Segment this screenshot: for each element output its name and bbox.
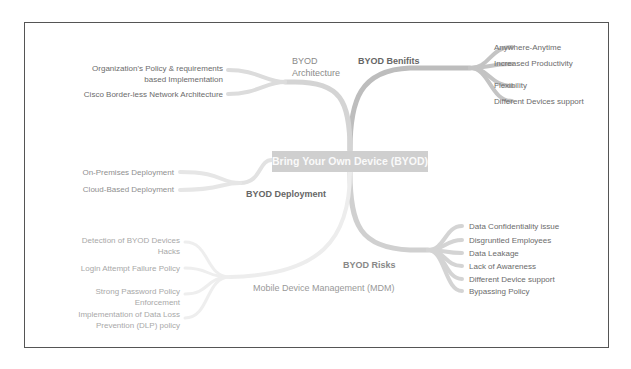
branch-benefits[interactable]: BYOD Benifits bbox=[358, 55, 420, 67]
central-topic[interactable]: Bring Your Own Device (BYOD) bbox=[272, 151, 428, 172]
branch-architecture-line1: BYOD bbox=[292, 55, 340, 67]
branch-risks[interactable]: BYOD Risks bbox=[343, 259, 396, 271]
benefit-item[interactable]: Flexibility bbox=[494, 80, 527, 91]
risk-item[interactable]: Bypassing Policy bbox=[469, 286, 529, 297]
benefit-item[interactable]: Increased Productivity bbox=[494, 58, 573, 69]
branch-deployment[interactable]: BYOD Deployment bbox=[246, 188, 326, 200]
benefit-item[interactable]: Different Devices support bbox=[494, 96, 584, 107]
risk-item[interactable]: Different Device support bbox=[469, 274, 555, 285]
mdm-item[interactable]: Login Attempt Failure Policy bbox=[81, 263, 180, 274]
deployment-item[interactable]: Cloud-Based Deployment bbox=[83, 184, 174, 195]
mdm-item[interactable]: Strong Password Policy Enforcement bbox=[96, 286, 180, 308]
item-line: Strong Password Policy bbox=[96, 286, 180, 297]
item-line: Implementation of Data Loss bbox=[78, 309, 180, 320]
deployment-item[interactable]: On-Premises Deployment bbox=[82, 167, 174, 178]
branch-mdm[interactable]: Mobile Device Management (MDM) bbox=[253, 282, 395, 294]
risk-item[interactable]: Data Leakage bbox=[469, 248, 519, 259]
mdm-item[interactable]: Detection of BYOD Devices Hacks bbox=[82, 235, 180, 257]
item-line: Enforcement bbox=[96, 297, 180, 308]
mdm-item[interactable]: Implementation of Data Loss Prevention (… bbox=[78, 309, 180, 331]
item-line: Organization's Policy & requirements bbox=[92, 63, 223, 74]
benefit-item[interactable]: Anywhere-Anytime bbox=[494, 42, 561, 53]
risk-item[interactable]: Disgruntled Employees bbox=[469, 235, 551, 246]
branch-architecture[interactable]: BYOD Architecture bbox=[292, 55, 340, 79]
architecture-item-policy[interactable]: Organization's Policy & requirements bas… bbox=[92, 63, 223, 85]
risk-item[interactable]: Data Confidentiality issue bbox=[469, 221, 559, 232]
item-line: Prevention (DLP) policy bbox=[78, 320, 180, 331]
risk-item[interactable]: Lack of Awareness bbox=[469, 261, 536, 272]
item-line: based Implementation bbox=[92, 74, 223, 85]
branch-architecture-line2: Architecture bbox=[292, 67, 340, 79]
item-line: Detection of BYOD Devices bbox=[82, 235, 180, 246]
item-line: Hacks bbox=[82, 246, 180, 257]
architecture-item-cisco[interactable]: Cisco Border-less Network Architecture bbox=[84, 89, 223, 100]
